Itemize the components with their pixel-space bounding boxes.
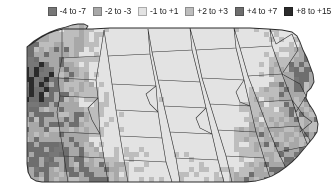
legend-color-swatch — [48, 7, 57, 16]
legend-item-label: +4 to +7 — [247, 7, 277, 16]
map-legend: -4 to -7-2 to -3-1 to +1+2 to +3+4 to +7… — [55, 0, 331, 23]
map-figure: -4 to -7-2 to -3-1 to +1+2 to +3+4 to +7… — [0, 0, 331, 190]
legend-color-swatch — [138, 7, 147, 16]
legend-item: +4 to +7 — [235, 7, 277, 16]
legend-item: +2 to +3 — [185, 7, 227, 16]
legend-item-label: +2 to +3 — [197, 7, 227, 16]
legend-item: -4 to -7 — [48, 7, 86, 16]
legend-item-label: -4 to -7 — [60, 7, 86, 16]
legend-color-swatch — [284, 7, 293, 16]
legend-color-swatch — [185, 7, 194, 16]
pennsylvania-choropleth-map — [0, 0, 331, 190]
legend-color-swatch — [235, 7, 244, 16]
legend-item: -1 to +1 — [138, 7, 178, 16]
legend-item-label: -1 to +1 — [150, 7, 178, 16]
legend-item-label: -2 to -3 — [105, 7, 131, 16]
legend-items-container: -4 to -7-2 to -3-1 to +1+2 to +3+4 to +7… — [48, 7, 331, 16]
legend-item-label: +8 to +15 — [296, 7, 331, 16]
legend-item: -2 to -3 — [93, 7, 131, 16]
legend-color-swatch — [93, 7, 102, 16]
legend-item: +8 to +15 — [284, 7, 331, 16]
